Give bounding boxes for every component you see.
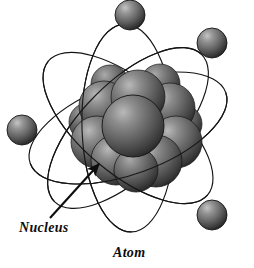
electron-left xyxy=(7,115,37,145)
electron-upper-right xyxy=(197,28,227,58)
electron-top xyxy=(115,0,145,30)
nucleus-label: Nucleus xyxy=(19,220,69,236)
atom-label: Atom xyxy=(113,245,145,261)
electron-bottom-right xyxy=(197,200,227,230)
atom-diagram: Nucleus Atom xyxy=(0,0,254,268)
nucleus-particle-front xyxy=(102,95,164,157)
